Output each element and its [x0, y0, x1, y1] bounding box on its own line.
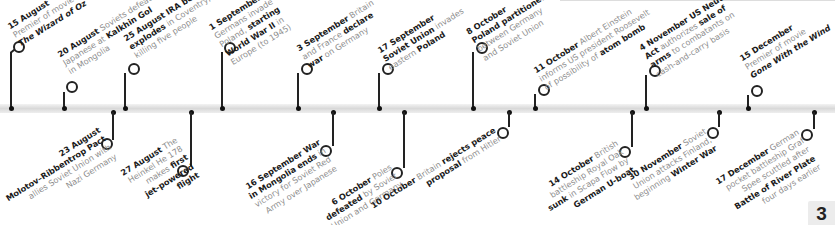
event-label: 14 October Britishbattleship Royal Oaksu…: [536, 138, 637, 222]
timeline-dot-icon: [220, 106, 225, 111]
timeline-dot-icon: [533, 106, 538, 111]
event-label: 1 SeptemberGermans invadePoland, startin…: [207, 0, 293, 67]
event-label: 17 SeptemberSoviet Union invadeseastern …: [376, 0, 471, 73]
page-number: 3: [808, 201, 835, 225]
event-label: 30 November SovietUnion attacks Finland,…: [622, 126, 719, 203]
event-label: 17 December Germanpocket battleship Graf…: [713, 127, 822, 221]
timeline-dot-icon: [62, 106, 67, 111]
event-label: 3 September Britainand France declarewar…: [295, 0, 387, 71]
timeline-dot-icon: [644, 106, 649, 111]
event-label: 27 August TheHeinkel He 178makes firstje…: [119, 135, 201, 213]
timeline-dot-icon: [296, 106, 301, 111]
timeline-dot-icon: [746, 106, 751, 111]
timeline-dot-icon: [377, 106, 382, 111]
top-border: [560, 0, 835, 1]
timeline-dot-icon: [123, 106, 128, 111]
timeline-dot-icon: [9, 106, 14, 111]
event-label: 23 AugustMolotov–Ribbentrop Pactallies S…: [0, 125, 119, 221]
event-marker-icon: [128, 63, 140, 75]
timeline-dot-icon: [471, 106, 476, 111]
event-label: 4 November US NeutralityAct authorizes s…: [637, 0, 761, 79]
event-marker-icon: [751, 85, 763, 97]
event-marker-icon: [66, 81, 78, 93]
